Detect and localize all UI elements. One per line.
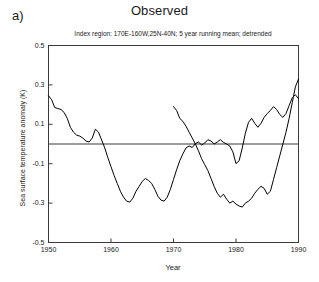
x-axis-title: Year [48,263,298,272]
x-tick-label: 1990 [279,246,319,254]
y-tick-label: 0.3 [15,81,45,89]
chart-title: Observed [0,4,319,18]
chart-subtitle: Index region: 170E-160W,25N-40N; 5 year … [48,30,298,38]
data-line-series-2 [174,79,299,207]
y-tick-label: -0.1 [15,160,45,168]
x-tick-label: 1980 [216,246,256,254]
y-tick-label: 0.1 [15,120,45,128]
y-tick-label: -0.3 [15,199,45,207]
figure-panel: a) Observed Index region: 170E-160W,25N-… [0,0,319,282]
x-tick-label: 1970 [154,246,194,254]
x-tick-label: 1950 [29,246,69,254]
x-tick-label: 1960 [91,246,131,254]
y-tick-label: 0.5 [15,42,45,50]
plot-area [0,0,319,282]
